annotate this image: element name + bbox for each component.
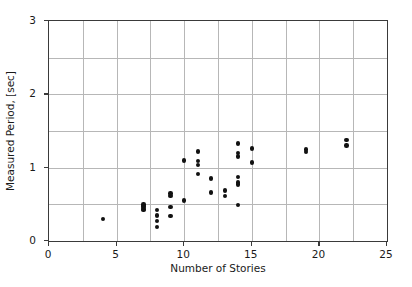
data-point	[155, 219, 159, 223]
data-point	[168, 194, 172, 198]
gridline-vertical	[150, 21, 151, 241]
y-axis-tick-label: 0	[29, 234, 36, 246]
data-point	[304, 150, 308, 154]
data-point	[196, 149, 200, 153]
x-axis-tick	[251, 242, 252, 246]
data-point	[236, 154, 240, 158]
data-point	[196, 172, 200, 176]
y-axis-tick-label: 1	[29, 161, 36, 173]
x-axis-tick-label: 10	[177, 248, 190, 260]
data-point	[182, 158, 186, 162]
gridline-vertical	[319, 21, 320, 241]
gridline-vertical	[286, 21, 287, 241]
data-point	[155, 225, 159, 229]
data-point	[182, 198, 186, 202]
x-axis-label: Number of Stories	[48, 262, 388, 274]
data-point	[250, 160, 254, 164]
gridline-vertical	[218, 21, 219, 241]
x-axis-tick	[183, 242, 184, 246]
y-axis-tick-label: 2	[29, 87, 36, 99]
y-axis-tick-label: 3	[29, 14, 36, 26]
x-axis-tick-label: 25	[379, 248, 392, 260]
data-point	[236, 203, 240, 207]
data-point	[344, 138, 348, 142]
x-axis-tick-label: 5	[112, 248, 119, 260]
data-point	[168, 205, 172, 209]
x-axis-tick	[386, 242, 387, 246]
x-axis-tick	[318, 242, 319, 246]
data-point	[101, 217, 105, 221]
data-point	[236, 141, 240, 145]
data-point	[344, 143, 348, 147]
gridline-vertical	[252, 21, 253, 241]
plot-area	[48, 20, 388, 242]
gridline-vertical	[117, 21, 118, 241]
data-point	[209, 176, 213, 180]
x-axis-tick-label: 15	[244, 248, 257, 260]
data-point	[223, 194, 227, 198]
x-axis-tick	[48, 242, 49, 246]
data-point	[155, 213, 159, 217]
data-point	[236, 175, 240, 179]
data-point	[196, 163, 200, 167]
x-axis-tick-label: 20	[312, 248, 325, 260]
x-axis-tick-label: 0	[45, 248, 52, 260]
data-point	[155, 208, 159, 212]
data-point	[223, 188, 227, 192]
data-point	[236, 182, 240, 186]
data-point	[141, 208, 145, 212]
data-point	[209, 190, 213, 194]
gridline-vertical	[184, 21, 185, 241]
y-axis-tick-labels: 0123	[0, 20, 44, 242]
data-point	[168, 214, 172, 218]
scatter-plot-figure: Measured Period, [sec] 0123 0510152025 N…	[0, 0, 412, 287]
x-axis-tick	[116, 242, 117, 246]
gridline-vertical	[83, 21, 84, 241]
x-axis-tick-labels: 0510152025	[48, 242, 388, 262]
data-point	[250, 146, 254, 150]
gridline-vertical	[353, 21, 354, 241]
